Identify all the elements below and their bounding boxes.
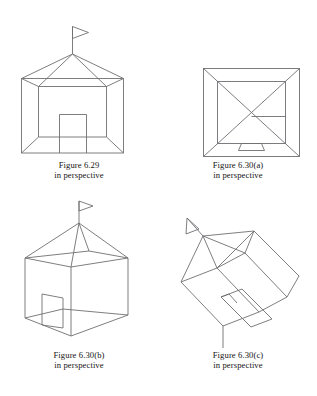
eave-strut-right (107, 79, 124, 87)
figure-6-29-caption: Figure 6.29 in perspective (0, 160, 158, 181)
floor-edge-back-right (63, 309, 128, 315)
figure-6-30-a: Figure 6.30(a) in perspective (159, 6, 317, 181)
figure-6-30-c-caption: Figure 6.30(c) in perspective (159, 350, 317, 371)
floor-edge-front-left (25, 318, 71, 336)
figure-6-30-b-artwork (0, 196, 158, 348)
far-edge-a (287, 276, 299, 297)
figure-6-29-caption-line2: in perspective (0, 170, 158, 180)
figure-6-30-a-caption: Figure 6.30(a) in perspective (159, 160, 317, 181)
body-edge-left (181, 282, 223, 326)
figure-6-30-b: Figure 6.30(b) in perspective (0, 196, 158, 371)
eave-front-left (25, 258, 71, 267)
eave-front-right (71, 258, 128, 267)
flag-banner-icon (79, 201, 93, 211)
door-trapezoid (239, 144, 265, 151)
figure-6-30-a-caption-line2: in perspective (159, 170, 317, 180)
floor-edge-front-right (71, 315, 128, 336)
floor-edge-back-left (25, 309, 63, 318)
roof-ridge-front-right (73, 54, 124, 79)
body-edge-mid-right (245, 253, 287, 297)
figure-6-30-a-artwork (159, 6, 317, 158)
figure-6-30-b-caption-line1: Figure 6.30(b) (0, 350, 158, 360)
floor-recede-right (107, 137, 124, 153)
eave-b-d (217, 253, 245, 268)
figure-6-30-a-caption-line1: Figure 6.30(a) (159, 160, 317, 170)
house-rotated-perspective-drawing (159, 196, 317, 348)
figure-6-29-caption-line1: Figure 6.29 (0, 160, 158, 170)
body-edge-front (217, 268, 259, 312)
figure-6-30-b-caption: Figure 6.30(b) in perspective (0, 350, 158, 371)
roof-ridge-to-front (71, 223, 79, 267)
figure-6-29: Figure 6.29 in perspective (0, 6, 158, 181)
partition-bottom-edge (251, 319, 272, 327)
roof-ridge-to-right (79, 223, 128, 258)
far-edge-c (223, 312, 259, 326)
door-notch-side (229, 294, 237, 303)
floor-recede-left (22, 137, 39, 153)
house-two-point-perspective-drawing (0, 196, 158, 348)
figure-6-30-c: Figure 6.30(c) in perspective (159, 196, 317, 371)
figure-6-29-artwork (0, 6, 158, 158)
house-frontal-square-drawing (159, 6, 317, 158)
figure-6-30-b-caption-line2: in perspective (0, 360, 158, 370)
figure-sheet: Figure 6.29 in perspective (0, 0, 317, 396)
figure-6-30-c-artwork (159, 196, 317, 348)
eave-back-right (89, 251, 128, 258)
partition-top (42, 294, 63, 298)
flag-banner-icon (73, 27, 89, 39)
door-notch-top (221, 294, 229, 297)
partition-right-edge (242, 289, 272, 319)
house-one-point-perspective-drawing (0, 6, 158, 158)
partition-bottom (42, 325, 63, 328)
figure-6-30-c-caption-line2: in perspective (159, 360, 317, 370)
figure-6-30-c-caption-line1: Figure 6.30(c) (159, 350, 317, 360)
roof-ridge-front-left (22, 54, 73, 79)
roof-ridge-a (203, 231, 254, 236)
eave-a-b (245, 231, 254, 253)
eave-strut-left (22, 79, 39, 87)
roof-ridge-to-back (79, 223, 89, 251)
roof-ridge-back-right (73, 54, 107, 87)
roof-ridge-back-left (39, 54, 73, 87)
roof-ridge-cross (217, 231, 254, 268)
flag-banner-icon (186, 218, 199, 234)
